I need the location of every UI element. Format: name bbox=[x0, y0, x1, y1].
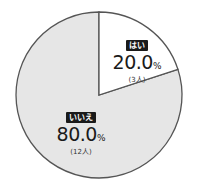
label-yes-count: (3人) bbox=[106, 76, 168, 84]
label-no: いいえ 80.0% (12人) bbox=[50, 105, 112, 156]
label-no-count: (12人) bbox=[50, 148, 112, 156]
pie-chart bbox=[0, 0, 197, 193]
label-no-percent: 80.0% bbox=[50, 124, 112, 148]
label-yes-tag: はい bbox=[126, 40, 148, 51]
label-no-tag: いいえ bbox=[66, 112, 96, 123]
label-yes-percent: 20.0% bbox=[106, 52, 168, 76]
label-yes: はい 20.0% (3人) bbox=[106, 33, 168, 84]
